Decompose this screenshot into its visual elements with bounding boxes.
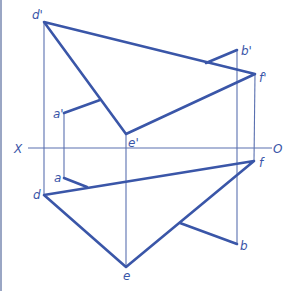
line-b	[180, 223, 237, 244]
left-border	[0, 0, 2, 291]
projection-diagram: X O d' e' f' a' b' d e f a b	[0, 0, 291, 291]
triangle-front-view	[44, 22, 255, 134]
label-f-prime: f'	[259, 71, 267, 85]
label-d-prime: d'	[32, 8, 43, 22]
label-b-prime: b'	[241, 44, 252, 58]
triangle-top-view	[44, 161, 254, 267]
diagram-canvas: X O d' e' f' a' b' d e f a b	[0, 0, 291, 291]
label-e: e	[123, 269, 130, 283]
axis-label-x: X	[13, 142, 23, 156]
axis-label-o: O	[273, 142, 282, 156]
label-a: a	[54, 171, 61, 185]
label-f: f	[259, 156, 265, 170]
label-e-prime: e'	[128, 136, 139, 150]
label-d: d	[33, 188, 41, 202]
label-a-prime: a'	[53, 107, 64, 121]
line-b-prime	[206, 50, 237, 63]
label-b: b	[240, 239, 248, 253]
line-a	[64, 178, 87, 187]
line-a-prime	[64, 100, 100, 113]
